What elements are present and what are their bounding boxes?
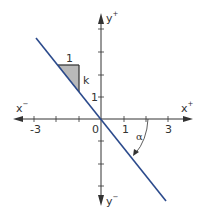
x-tick-label-neg3: -3 — [30, 124, 41, 135]
coordinate-diagram: x− x+ y+ y− 0 -3 1 3 1 1 k α — [0, 0, 198, 213]
x-axis-right-arrow-icon — [183, 116, 193, 122]
x-tick-label-1: 1 — [122, 124, 129, 135]
angle-label: α — [136, 132, 143, 142]
x-positive-label: x+ — [181, 103, 193, 114]
triangle-run-label: 1 — [66, 53, 73, 64]
triangle-rise-label: k — [83, 75, 89, 86]
y-tick-label-1: 1 — [91, 92, 98, 103]
origin-label: 0 — [92, 124, 99, 135]
x-axis-left-arrow-icon — [13, 116, 23, 122]
y-positive-label: y+ — [106, 13, 118, 24]
y-negative-label: y− — [106, 196, 118, 207]
x-negative-label: x− — [16, 103, 28, 114]
y-axis-up-arrow-icon — [98, 13, 104, 24]
diagram-canvas — [0, 0, 198, 213]
y-axis-down-arrow-icon — [98, 195, 104, 206]
x-tick-label-3: 3 — [165, 124, 172, 135]
